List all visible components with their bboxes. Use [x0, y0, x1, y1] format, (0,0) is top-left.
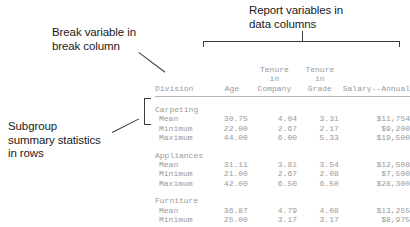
stat-label: Minimum [155, 124, 216, 133]
value-salary: $11,754 [343, 114, 410, 123]
value-tenure-grade: 3.54 [301, 160, 343, 169]
stat-label: Maximum [155, 179, 216, 188]
value-age: 25.00 [216, 215, 252, 224]
value-age: 36.87 [216, 206, 252, 215]
annotation-subgroup-statistics: Subgroup summary statistics in rows [8, 120, 101, 161]
value-tenure-company: 2.67 [252, 124, 301, 133]
stat-label: Mean [155, 160, 216, 169]
header-spacer-row [155, 97, 410, 105]
column-header-salary-annual: Salary--Annual [343, 65, 410, 93]
annotation-break-variable: Break variable in break column [52, 26, 136, 53]
value-salary: $7,500 [343, 169, 410, 178]
bracket-subgroup-rows [144, 98, 151, 125]
value-age: 44.00 [216, 133, 252, 142]
value-tenure-grade: 6.25 [301, 225, 343, 227]
value-age: 31.11 [216, 160, 252, 169]
group-spacer-row [155, 143, 410, 150]
leader-line-subgroup-stats [112, 118, 139, 133]
value-tenure-grade: 2.08 [301, 169, 343, 178]
stat-label: Minimum [155, 169, 216, 178]
table-row: Maximum43.006.836.25$17,050 [155, 225, 410, 227]
group-spacer-row [155, 188, 410, 195]
table-row: Maximum42.006.506.50$28,300 [155, 179, 410, 188]
value-tenure-company: 2.67 [252, 169, 301, 178]
column-header-division: Division [155, 65, 216, 93]
column-header-tenure-in-company: Tenure in Company [252, 65, 301, 93]
report-table-head: Division Age Tenure in Company Tenure in… [155, 65, 410, 104]
value-salary: $13,255 [343, 206, 410, 215]
table-row: Mean31.113.813.54$12,508 [155, 160, 410, 169]
stat-label: Maximum [155, 133, 216, 142]
value-tenure-grade: 5.33 [301, 133, 343, 142]
table-row: Minimum25.003.173.17$8,975 [155, 215, 410, 224]
column-header-tenure-in-grade: Tenure in Grade [301, 65, 343, 93]
column-header-age: Age [216, 65, 252, 93]
value-age: 43.00 [216, 225, 252, 227]
value-tenure-grade: 2.17 [301, 124, 343, 133]
value-tenure-company: 4.04 [252, 114, 301, 123]
division-row: Appliances [155, 150, 410, 160]
value-salary: $28,300 [343, 179, 410, 188]
value-tenure-grade: 6.50 [301, 179, 343, 188]
leader-tick-report-variables [302, 31, 303, 41]
annotation-report-variables: Report variables in data columns [249, 4, 343, 31]
report-table-wrapper: Division Age Tenure in Company Tenure in… [155, 46, 410, 226]
table-row: Minimum21.002.672.08$7,500 [155, 169, 410, 178]
division-name: Carpeting [155, 104, 216, 114]
stat-label: Minimum [155, 215, 216, 224]
table-header-row: Division Age Tenure in Company Tenure in… [155, 65, 410, 93]
division-row: Carpeting [155, 104, 410, 114]
table-row: Mean36.874.794.08$13,255 [155, 206, 410, 215]
stat-label: Maximum [155, 225, 216, 227]
value-tenure-company: 3.81 [252, 160, 301, 169]
value-age: 42.00 [216, 179, 252, 188]
division-row: Furniture [155, 195, 410, 205]
value-tenure-grade: 3.31 [301, 114, 343, 123]
value-tenure-company: 6.83 [252, 225, 301, 227]
stat-label: Mean [155, 114, 216, 123]
table-row: Minimum22.002.672.17$9,200 [155, 124, 410, 133]
value-salary: $9,200 [343, 124, 410, 133]
report-table: Division Age Tenure in Company Tenure in… [155, 65, 410, 226]
value-age: 30.75 [216, 114, 252, 123]
value-tenure-grade: 3.17 [301, 215, 343, 224]
value-tenure-company: 4.79 [252, 206, 301, 215]
value-tenure-company: 6.50 [252, 179, 301, 188]
table-row: Mean30.754.043.31$11,754 [155, 114, 410, 123]
value-salary: $17,050 [343, 225, 410, 227]
division-name: Appliances [155, 150, 216, 160]
value-tenure-company: 6.00 [252, 133, 301, 142]
report-figure: Break variable in break column Report va… [0, 0, 410, 226]
value-tenure-company: 3.17 [252, 215, 301, 224]
value-age: 22.00 [216, 124, 252, 133]
report-table-body: CarpetingMean30.754.043.31$11,754Minimum… [155, 104, 410, 226]
value-salary: $8,975 [343, 215, 410, 224]
stat-label: Mean [155, 206, 216, 215]
value-age: 21.00 [216, 169, 252, 178]
value-tenure-grade: 4.08 [301, 206, 343, 215]
table-row: Maximum44.006.005.33$19,500 [155, 133, 410, 142]
division-name: Furniture [155, 195, 216, 205]
value-salary: $12,508 [343, 160, 410, 169]
value-salary: $19,500 [343, 133, 410, 142]
